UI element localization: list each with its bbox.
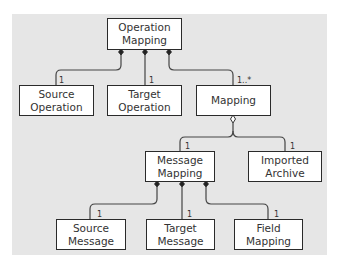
multiplicity-label: 1 xyxy=(185,142,190,151)
node-message-mapping: Message Mapping xyxy=(145,151,215,182)
multiplicity-label: 1 xyxy=(59,76,64,85)
node-label: Mapping xyxy=(211,94,256,107)
node-label: Operation xyxy=(30,101,82,114)
node-label: Target xyxy=(164,222,196,235)
multiplicity-label: 1 xyxy=(97,210,102,219)
multiplicity-label: 1..* xyxy=(237,76,251,85)
node-label: Source xyxy=(38,88,74,101)
node-label: Message xyxy=(68,235,114,248)
node-label: Message xyxy=(157,154,203,167)
node-label: Archive xyxy=(265,167,304,180)
node-operation-mapping: Operation Mapping xyxy=(107,18,182,50)
node-target-operation: Target Operation xyxy=(107,85,182,116)
node-label: Source xyxy=(73,222,109,235)
multiplicity-label: 1 xyxy=(274,210,279,219)
node-label: Field xyxy=(256,222,280,235)
node-target-message: Target Message xyxy=(146,219,215,250)
multiplicity-label: 1 xyxy=(290,142,295,151)
node-label: Imported xyxy=(261,154,309,167)
node-label: Operation xyxy=(118,101,170,114)
multiplicity-label: 1 xyxy=(149,76,154,85)
node-source-message: Source Message xyxy=(56,219,126,250)
node-label: Message xyxy=(157,235,203,248)
aggregation-diamond-icon xyxy=(231,115,236,123)
node-mapping: Mapping xyxy=(196,85,271,116)
node-label: Mapping xyxy=(246,235,291,248)
node-field-mapping: Field Mapping xyxy=(234,219,303,250)
multiplicity-label: 1 xyxy=(187,210,192,219)
node-label: Mapping xyxy=(157,167,202,180)
node-imported-archive: Imported Archive xyxy=(248,151,322,182)
node-label: Operation xyxy=(118,21,170,34)
node-label: Mapping xyxy=(122,34,167,47)
node-source-operation: Source Operation xyxy=(19,85,94,116)
node-label: Target xyxy=(128,88,160,101)
